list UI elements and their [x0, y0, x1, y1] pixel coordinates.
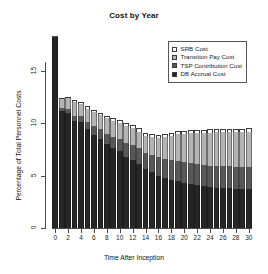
y-axis-tick — [41, 123, 46, 124]
x-axis-tick-label: 10 — [116, 234, 123, 241]
x-axis-tick — [68, 229, 69, 233]
bar-stack[interactable] — [52, 33, 58, 228]
bar-stack[interactable] — [65, 33, 71, 228]
bar-segment — [149, 137, 155, 154]
bar-segment — [227, 132, 233, 167]
legend-item[interactable]: Transition Pay Cost — [172, 53, 242, 61]
bar-segment — [246, 189, 252, 228]
legend-item-label: TSP Contribution Cost — [181, 62, 242, 70]
bar-segment — [65, 113, 71, 228]
bar-stack[interactable] — [91, 33, 97, 228]
x-axis-tick-label: 20 — [181, 234, 188, 241]
x-axis-tick-label: 18 — [168, 234, 175, 241]
bar-stack[interactable] — [130, 33, 136, 228]
bar-segment — [227, 188, 233, 228]
chart-legend: SRB CostTransition Pay CostTSP Contribut… — [168, 41, 247, 83]
bar-segment — [130, 160, 136, 228]
x-axis-tick — [236, 229, 237, 233]
bar-segment — [72, 121, 78, 228]
x-axis-tick-label: 4 — [79, 234, 83, 241]
bar-segment — [104, 134, 110, 144]
bar-stack[interactable] — [98, 33, 104, 228]
bar-segment — [59, 99, 65, 108]
x-axis-tick — [55, 229, 56, 233]
bar-segment — [246, 167, 252, 189]
bar-segment — [181, 134, 187, 162]
bar-segment — [136, 132, 142, 149]
bar-stack[interactable] — [59, 33, 65, 228]
bar-stack[interactable] — [143, 33, 149, 228]
legend-swatch-icon — [172, 55, 177, 60]
legend-item[interactable]: TSP Contribution Cost — [172, 62, 242, 70]
x-axis-tick-label: 16 — [155, 234, 162, 241]
bar-segment — [123, 126, 129, 143]
x-axis-tick-label: 30 — [245, 234, 252, 241]
bar-segment — [162, 159, 168, 178]
bar-stack[interactable] — [162, 33, 168, 228]
y-axis-tick-label: 0 — [30, 223, 37, 233]
bar-segment — [201, 165, 207, 186]
x-axis-tick-label: 8 — [105, 234, 109, 241]
bar-segment — [233, 132, 239, 167]
x-axis-tick — [94, 229, 95, 233]
bar-segment — [117, 123, 123, 139]
bar-segment — [181, 183, 187, 228]
bar-segment — [72, 102, 78, 116]
bar-segment — [194, 185, 200, 228]
bar-segment — [162, 137, 168, 159]
legend-item[interactable]: SRB Cost — [172, 45, 242, 53]
bar-stack[interactable] — [117, 33, 123, 228]
bar-segment — [136, 148, 142, 164]
bar-stack[interactable] — [110, 33, 116, 228]
x-axis-tick — [146, 229, 147, 233]
bar-stack[interactable] — [78, 33, 84, 228]
bar-segment — [207, 166, 213, 188]
bar-stack[interactable] — [85, 33, 91, 228]
bar-segment — [143, 169, 149, 228]
bar-segment — [85, 122, 91, 129]
legend-item-label: Transition Pay Cost — [181, 53, 235, 61]
bar-segment — [52, 37, 58, 228]
bar-segment — [162, 178, 168, 228]
bar-segment — [188, 163, 194, 184]
x-axis-tick — [223, 229, 224, 233]
bar-stack[interactable] — [136, 33, 142, 228]
bar-stack[interactable] — [156, 33, 162, 228]
bar-segment — [149, 172, 155, 228]
bar-segment — [143, 153, 149, 170]
y-axis-title: Percentage of Total Personnel Costs — [15, 81, 22, 211]
bar-segment — [239, 167, 245, 189]
x-axis-tick — [81, 229, 82, 233]
bar-segment — [188, 133, 194, 163]
legend-item-label: SRB Cost — [181, 45, 208, 53]
bar-segment — [110, 137, 116, 149]
bar-segment — [98, 139, 104, 228]
chart-title: Cost by Year — [0, 11, 268, 20]
bar-segment — [59, 111, 65, 228]
bar-segment — [130, 128, 136, 145]
bar-stack[interactable] — [123, 33, 129, 228]
bar-segment — [239, 189, 245, 228]
bar-segment — [214, 166, 220, 188]
bar-stack[interactable] — [104, 33, 110, 228]
legend-swatch-icon — [172, 63, 177, 68]
bar-segment — [91, 135, 97, 228]
legend-swatch-icon — [172, 47, 177, 52]
bar-segment — [110, 121, 116, 137]
bar-stack[interactable] — [149, 33, 155, 228]
x-axis-tick — [184, 229, 185, 233]
y-axis-tick-label: 5 — [30, 170, 37, 180]
legend-swatch-icon — [172, 72, 177, 77]
bar-segment — [175, 161, 181, 181]
x-axis-tick — [197, 229, 198, 233]
bar-segment — [220, 132, 226, 166]
bar-segment — [110, 148, 116, 228]
x-axis-tick-label: 0 — [53, 234, 57, 241]
bar-segment — [175, 181, 181, 228]
legend-item[interactable]: DB Accrual Cost — [172, 70, 242, 78]
bar-stack[interactable] — [72, 33, 78, 228]
bar-segment — [117, 151, 123, 228]
bar-segment — [194, 133, 200, 164]
x-axis-tick-label: 6 — [92, 234, 96, 241]
x-axis-title: Time After Inception — [0, 254, 268, 261]
